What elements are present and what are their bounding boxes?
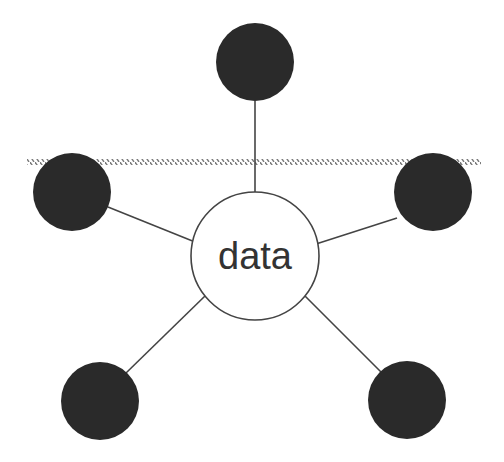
- connector-left: [108, 207, 195, 242]
- hub-spoke-diagram: data: [0, 0, 504, 462]
- node-right: [394, 153, 472, 231]
- connector-bottom-left: [126, 296, 205, 373]
- node-left: [33, 153, 111, 231]
- connector-bottom-right: [305, 296, 381, 372]
- node-bottom-right: [368, 361, 446, 439]
- node-bottom-left: [61, 362, 139, 440]
- node-top: [216, 23, 294, 101]
- connector-right: [316, 218, 397, 244]
- center-node-label: data: [218, 235, 293, 277]
